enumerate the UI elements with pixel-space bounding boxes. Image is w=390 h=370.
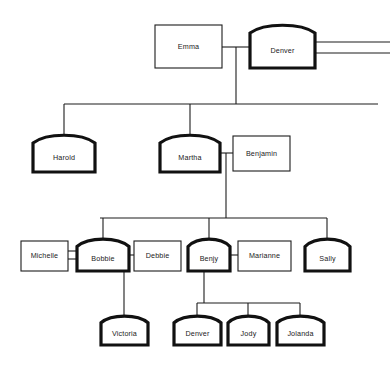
node-label: Harold [53, 153, 75, 162]
family-tree-diagram: EmmaDenverHaroldMarthaBenjaminMichelleBo… [0, 0, 390, 370]
node-label: Michelle [31, 251, 59, 260]
node-layer: EmmaDenverHaroldMarthaBenjaminMichelleBo… [21, 25, 350, 345]
node-michelle[interactable]: Michelle [21, 241, 68, 271]
node-label: Benjy [200, 254, 219, 263]
node-denver2[interactable]: Denver [174, 316, 221, 345]
node-label: Emma [178, 42, 199, 51]
node-debbie[interactable]: Debbie [134, 241, 181, 271]
node-label: Denver [270, 46, 295, 55]
node-victoria[interactable]: Victoria [101, 316, 148, 345]
node-label: Marianne [249, 251, 280, 260]
node-label: Sally [319, 254, 336, 263]
connector-layer [64, 42, 390, 315]
node-label: Debbie [146, 251, 170, 260]
node-label: Martha [178, 153, 201, 162]
node-jolanda[interactable]: Jolanda [277, 316, 324, 345]
node-sally[interactable]: Sally [305, 239, 350, 271]
node-benjy[interactable]: Benjy [188, 239, 230, 271]
node-label: Denver [185, 329, 210, 338]
node-benjamin[interactable]: Benjamin [233, 136, 290, 171]
node-martha[interactable]: Martha [160, 135, 220, 172]
family-tree-canvas: EmmaDenverHaroldMarthaBenjaminMichelleBo… [0, 0, 390, 370]
node-emma[interactable]: Emma [155, 25, 222, 68]
node-label: Benjamin [246, 149, 277, 158]
node-marianne[interactable]: Marianne [238, 241, 291, 271]
node-harold[interactable]: Harold [33, 135, 95, 172]
node-denver1[interactable]: Denver [250, 25, 315, 68]
node-label: Victoria [112, 329, 137, 338]
node-label: Jolanda [287, 329, 313, 338]
node-bobbie[interactable]: Bobbie [77, 239, 129, 271]
node-jody[interactable]: Jody [228, 316, 269, 345]
node-label: Jody [241, 329, 257, 338]
node-label: Bobbie [91, 254, 114, 263]
